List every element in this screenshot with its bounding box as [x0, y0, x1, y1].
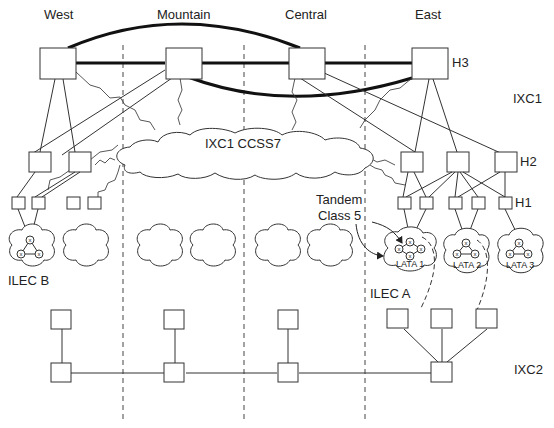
- class5-label-text: Class 5: [318, 209, 361, 222]
- ixc2-switches: [51, 309, 497, 382]
- svg-text:x: x: [474, 251, 477, 257]
- svg-text:x: x: [409, 239, 412, 245]
- ilec-a-label: ILEC A: [370, 287, 410, 300]
- svg-text:x: x: [518, 240, 521, 246]
- ilec-b-label: ILEC B: [8, 274, 49, 287]
- svg-text:x: x: [456, 251, 459, 257]
- svg-text:x: x: [38, 251, 41, 257]
- h1-label: H1: [515, 196, 532, 209]
- svg-text:x: x: [398, 246, 401, 252]
- diagram-graphics: xxx xxxx xxx xxx: [0, 0, 554, 428]
- svg-text:x: x: [465, 240, 468, 246]
- h3-label: H3: [452, 56, 469, 69]
- h2-label: H2: [520, 155, 537, 168]
- lata1-label: LATA 1: [396, 260, 424, 269]
- ixc1-label: IXC1: [513, 92, 542, 105]
- network-diagram: xxx xxxx xxx xxx West Mountain Central E…: [0, 0, 554, 428]
- h1-switches: [12, 197, 512, 209]
- lata2-label: LATA 2: [453, 261, 481, 270]
- region-label-east: East: [415, 8, 441, 21]
- tandem-label: Tandem: [316, 193, 362, 206]
- ccss7-label: IXC1 CCSS7: [205, 137, 281, 150]
- ixc2-label: IXC2: [514, 363, 543, 376]
- svg-text:x: x: [420, 246, 423, 252]
- region-label-west: West: [44, 8, 73, 21]
- h3-backbone: [68, 24, 412, 96]
- ixc2-links: [62, 329, 487, 373]
- lata3-label: LATA 3: [506, 261, 534, 270]
- svg-text:x: x: [20, 251, 23, 257]
- region-label-mountain: Mountain: [157, 8, 210, 21]
- svg-text:x: x: [29, 237, 32, 243]
- svg-text:x: x: [527, 251, 530, 257]
- svg-text:x: x: [509, 251, 512, 257]
- region-label-central: Central: [285, 8, 327, 21]
